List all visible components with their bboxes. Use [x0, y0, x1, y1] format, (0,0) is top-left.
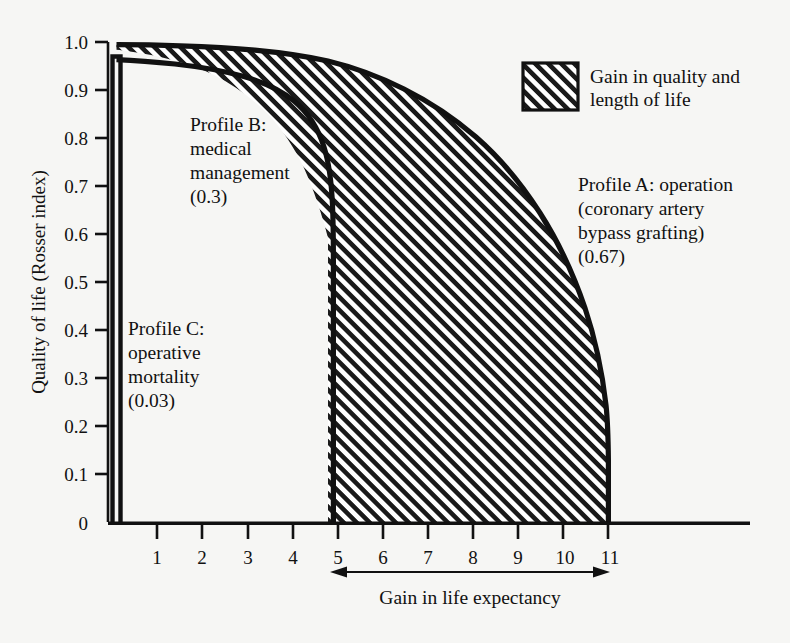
y-tick-label: 1.0	[64, 32, 88, 53]
y-tick-label: 0	[79, 513, 89, 534]
y-tick-label: 0.2	[64, 416, 88, 437]
x-tick-label: 7	[423, 547, 433, 568]
y-tick-label: 0.1	[64, 464, 88, 485]
y-axis-ticks	[95, 42, 108, 474]
x-tick-label: 4	[288, 547, 298, 568]
legend: Gain in quality and length of life	[523, 63, 740, 110]
profile-b-line4: (0.3)	[190, 186, 227, 208]
profile-b-line1: Profile B:	[190, 114, 266, 135]
chart-figure: 1.0 0.9 0.8 0.7 0.6 0.5 0.4 0.3 0.2 0.1 …	[0, 0, 790, 643]
profile-b-line2: medical	[190, 138, 252, 159]
profile-c-line2: operative	[128, 342, 201, 363]
profile-a-line2: (coronary artery	[578, 198, 704, 220]
profile-a-annotation: Profile A: operation (coronary artery by…	[578, 174, 733, 268]
x-tick-label: 1	[152, 547, 162, 568]
profile-b-annotation: Profile B: medical management (0.3)	[190, 114, 290, 208]
profile-c-bar	[113, 57, 121, 523]
x-tick-label: 6	[378, 547, 388, 568]
arrow-head-left	[330, 567, 347, 578]
profile-b-line3: management	[190, 162, 290, 183]
profile-c-line1: Profile C:	[128, 318, 204, 339]
y-tick-label: 0.6	[64, 224, 88, 245]
x-tick-label: 3	[243, 547, 253, 568]
y-tick-label: 0.9	[64, 80, 88, 101]
profile-a-line4: (0.67)	[578, 246, 625, 268]
x-axis-arrow-label: Gain in life expectancy	[379, 587, 561, 608]
legend-swatch-hatch	[523, 63, 578, 110]
y-tick-label: 0.5	[64, 272, 88, 293]
x-tick-label: 2	[197, 547, 207, 568]
profile-a-line3: bypass grafting)	[578, 222, 704, 244]
y-tick-label: 0.7	[64, 176, 88, 197]
x-axis-tick-labels: 1 2 3 4 5 6 7 8 9 10 11	[152, 547, 619, 568]
x-tick-label: 10	[556, 547, 575, 568]
chart-canvas: 1.0 0.9 0.8 0.7 0.6 0.5 0.4 0.3 0.2 0.1 …	[0, 0, 790, 643]
profile-c-annotation: Profile C: operative mortality (0.03)	[128, 318, 204, 412]
x-axis-ticks	[157, 523, 608, 539]
profile-a-line1: Profile A: operation	[578, 174, 733, 195]
profile-c-line4: (0.03)	[128, 390, 175, 412]
y-tick-label: 0.4	[64, 320, 88, 341]
arrow-head-right	[593, 567, 610, 578]
y-axis-tick-labels: 1.0 0.9 0.8 0.7 0.6 0.5 0.4 0.3 0.2 0.1 …	[64, 32, 88, 534]
x-tick-label: 8	[468, 547, 478, 568]
y-tick-label: 0.8	[64, 128, 88, 149]
legend-label-line1: Gain in quality and	[590, 66, 740, 87]
profile-c-line3: mortality	[128, 366, 200, 387]
gain-life-expectancy-arrow: Gain in life expectancy	[330, 567, 610, 609]
x-tick-label: 11	[601, 547, 619, 568]
y-tick-label: 0.3	[64, 368, 88, 389]
x-tick-label: 5	[333, 547, 343, 568]
x-tick-label: 9	[513, 547, 523, 568]
legend-label-line2: length of life	[590, 89, 691, 110]
y-axis-title: Quality of life (Rosser index)	[28, 170, 50, 394]
